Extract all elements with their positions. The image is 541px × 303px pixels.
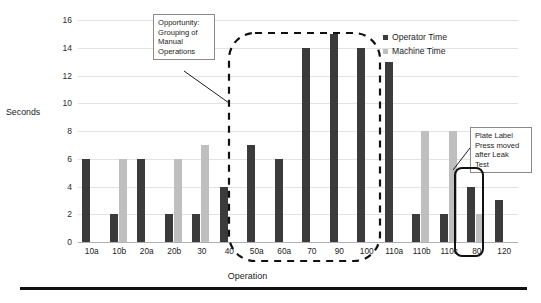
legend-label: Operator Time [392, 32, 447, 42]
y-tick-6: 6 [52, 154, 72, 164]
bar-10b-machine [119, 159, 127, 242]
bar-group: 60a [271, 20, 299, 242]
bar-group: 70 [298, 20, 326, 242]
bar-group: 40 [216, 20, 244, 242]
x-tick-40: 40 [215, 246, 243, 256]
bar-110b-operator [412, 214, 420, 242]
bar-70-operator [302, 48, 310, 242]
x-tick-120: 120 [490, 246, 518, 256]
x-tick-110b: 110b [408, 246, 436, 256]
bar-10b-operator [110, 214, 118, 242]
x-tick-110c: 110c [435, 246, 463, 256]
y-axis-title: Seconds [6, 107, 40, 117]
bar-50a-operator [247, 145, 255, 242]
bar-40-operator [220, 187, 228, 243]
chart-page: Seconds 0246810121416 10a10b20a20b304050… [0, 0, 541, 303]
y-tick-12: 12 [52, 71, 72, 81]
opportunity-callout-box: Opportunity: Grouping of Manual Operatio… [153, 14, 215, 60]
x-tick-100: 100 [353, 246, 381, 256]
bar-120-operator [495, 200, 503, 242]
y-tick-2: 2 [52, 209, 72, 219]
x-tick-110a: 110a [380, 246, 408, 256]
bar-20b-machine [174, 159, 182, 242]
x-tick-50a: 50a [243, 246, 271, 256]
x-tick-30: 30 [188, 246, 216, 256]
bar-30-operator [192, 214, 200, 242]
x-tick-60a: 60a [270, 246, 298, 256]
bar-group: 10a [78, 20, 106, 242]
x-tick-10b: 10b [105, 246, 133, 256]
x-tick-90: 90 [325, 246, 353, 256]
x-tick-20a: 20a [133, 246, 161, 256]
bar-group: 100 [353, 20, 381, 242]
bar-group: 50a [243, 20, 271, 242]
y-tick-0: 0 [52, 237, 72, 247]
bar-60a-operator [275, 159, 283, 242]
legend-swatch-icon [383, 35, 388, 40]
bar-110a-operator [385, 62, 393, 242]
bar-110b-machine [421, 131, 429, 242]
bottom-divider [20, 287, 527, 290]
y-tick-4: 4 [52, 182, 72, 192]
y-tick-16: 16 [52, 15, 72, 25]
x-tick-70: 70 [298, 246, 326, 256]
legend-swatch-icon [383, 49, 388, 54]
bar-110c-operator [440, 214, 448, 242]
bar-20b-operator [165, 214, 173, 242]
x-axis-title-text: Operation [228, 271, 268, 281]
gridline-0 [78, 242, 518, 243]
chart-legend: Operator TimeMachine Time [383, 32, 447, 60]
y-tick-14: 14 [52, 43, 72, 53]
x-axis-title: Operation [0, 271, 541, 281]
x-tick-10a: 10a [78, 246, 106, 256]
bar-80-machine [476, 214, 484, 242]
y-tick-8: 8 [52, 126, 72, 136]
plate-label-callout-box: Plate Label Press moved after Leak Test [470, 127, 532, 173]
bar-series-container: 10a10b20a20b304050a60a7090100110a110b110… [78, 20, 518, 242]
bar-110c-machine [449, 131, 457, 242]
plot-area: 0246810121416 10a10b20a20b304050a60a7090… [78, 20, 518, 242]
bar-20a-operator [137, 159, 145, 242]
legend-label: Machine Time [392, 46, 446, 56]
y-tick-10: 10 [52, 98, 72, 108]
bar-10a-operator [82, 159, 90, 242]
x-tick-80: 80 [463, 246, 491, 256]
legend-item-machine-time: Machine Time [383, 46, 447, 56]
bar-90-operator [330, 34, 338, 242]
bar-80-operator [467, 187, 475, 243]
bar-30-machine [201, 145, 209, 242]
bar-100-operator [357, 48, 365, 242]
bar-group: 10b [106, 20, 134, 242]
bar-group: 90 [326, 20, 354, 242]
legend-item-operator-time: Operator Time [383, 32, 447, 42]
x-tick-20b: 20b [160, 246, 188, 256]
